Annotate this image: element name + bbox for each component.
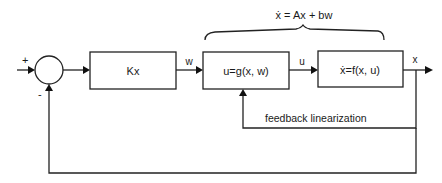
w-signal-label: w — [184, 56, 193, 67]
linearizing-law-label: u=g(x, w) — [223, 65, 269, 77]
u-arrowhead — [311, 66, 318, 74]
brace-label: ẋ = Ax + bw — [276, 9, 333, 21]
summing-junction — [35, 56, 63, 84]
input-arrowhead — [28, 66, 35, 74]
w-arrowhead — [196, 66, 203, 74]
inner-feedback-arrowhead — [239, 89, 247, 96]
x-signal-label: x — [413, 54, 418, 65]
linearizing-law-block: u=g(x, w) — [203, 52, 289, 89]
plant-label: ẋ=f(x, u) — [340, 64, 380, 76]
outer-feedback-line — [49, 89, 416, 173]
controller-label: Kx — [127, 65, 140, 77]
outer-feedback-arrowhead — [45, 84, 53, 91]
output-arrowhead — [425, 66, 433, 74]
sum-to-controller-arrowhead — [83, 66, 90, 74]
plus-sign: + — [22, 54, 28, 66]
plant-block: ẋ=f(x, u) — [318, 51, 403, 87]
equivalent-system-brace — [205, 25, 384, 40]
controller-block: Kx — [90, 52, 176, 89]
u-signal-label: u — [299, 56, 305, 67]
block-diagram: + - Kx w u=g(x, w) u ẋ=f(x, u) x feedbac… — [0, 0, 442, 183]
inner-loop-label: feedback linearization — [265, 112, 367, 124]
minus-sign: - — [38, 88, 42, 100]
